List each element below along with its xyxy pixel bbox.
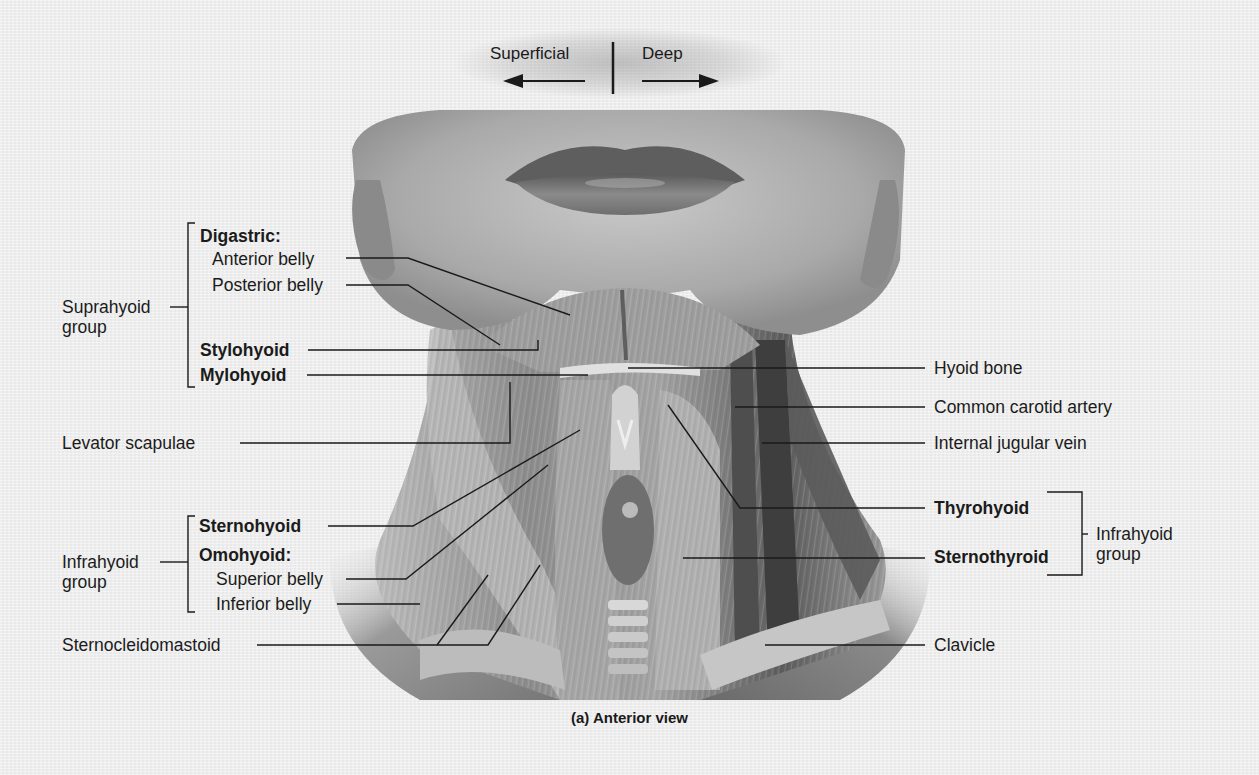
neck-anatomy-illustration bbox=[0, 0, 1259, 775]
label-omohyoid: Omohyoid: bbox=[199, 545, 291, 565]
thyroid-gland bbox=[602, 475, 654, 585]
suprahyoid-group-line1: Suprahyoid bbox=[62, 297, 151, 317]
label-mylohyoid: Mylohyoid bbox=[200, 365, 287, 385]
label-sternocleidomastoid: Sternocleidomastoid bbox=[62, 635, 221, 655]
arrow-right-icon bbox=[642, 74, 719, 88]
suprahyoid-group-label: Suprahyoid group bbox=[62, 297, 151, 337]
label-thyrohyoid: Thyrohyoid bbox=[934, 498, 1029, 518]
figure-caption: (a) Anterior view bbox=[0, 709, 1259, 726]
infrahyoid-right-line2: group bbox=[1096, 544, 1173, 564]
infrahyoid-right-line1: Infrahyoid bbox=[1096, 524, 1173, 544]
infrahyoid-left-line1: Infrahyoid bbox=[62, 552, 139, 572]
label-inferior-belly: Inferior belly bbox=[216, 594, 311, 614]
label-levator-scapulae: Levator scapulae bbox=[62, 433, 195, 453]
label-hyoid-bone: Hyoid bone bbox=[934, 358, 1023, 378]
infrahyoid-left-line2: group bbox=[62, 572, 139, 592]
suprahyoid-group-line2: group bbox=[62, 317, 151, 337]
infrahyoid-group-label-left: Infrahyoid group bbox=[62, 552, 139, 592]
arrow-left-icon bbox=[503, 74, 585, 88]
label-superior-belly: Superior belly bbox=[216, 569, 323, 589]
label-sternothyroid: Sternothyroid bbox=[934, 547, 1049, 567]
label-anterior-belly: Anterior belly bbox=[212, 249, 314, 269]
label-sternohyoid: Sternohyoid bbox=[199, 516, 301, 536]
orientation-indicator: Superficial Deep bbox=[455, 22, 785, 102]
label-posterior-belly: Posterior belly bbox=[212, 275, 323, 295]
label-internal-jugular-vein: Internal jugular vein bbox=[934, 433, 1087, 453]
label-stylohyoid: Stylohyoid bbox=[200, 340, 289, 360]
label-common-carotid-artery: Common carotid artery bbox=[934, 397, 1112, 417]
orientation-arrows bbox=[455, 22, 785, 102]
thyroid-cartilage bbox=[610, 385, 640, 470]
label-clavicle: Clavicle bbox=[934, 635, 995, 655]
infrahyoid-group-label-right: Infrahyoid group bbox=[1096, 524, 1173, 564]
label-digastric: Digastric: bbox=[200, 226, 281, 246]
